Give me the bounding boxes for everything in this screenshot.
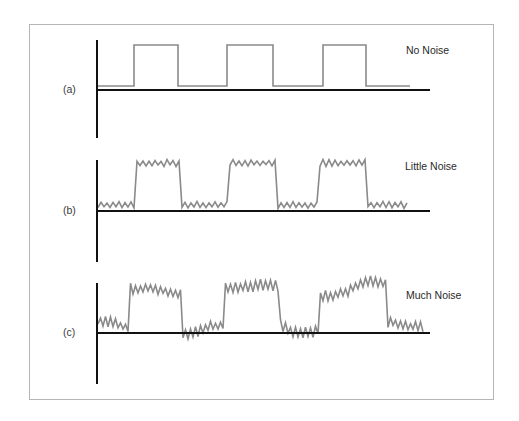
signal-trace-b — [98, 160, 407, 209]
label-little-noise: Little Noise — [405, 160, 457, 172]
panel-b-little-noise — [97, 160, 430, 263]
panel-tag-a: (a) — [63, 83, 76, 95]
panel-c-much-noise — [97, 276, 430, 384]
signal-trace-a — [98, 45, 410, 86]
panel-a-no-noise — [97, 40, 430, 138]
panel-tag-b: (b) — [63, 204, 76, 216]
signal-trace-c — [98, 276, 423, 339]
label-much-noise: Much Noise — [406, 289, 461, 301]
label-no-noise: No Noise — [406, 44, 449, 56]
signal-noise-diagram — [0, 0, 519, 421]
panel-tag-c: (c) — [63, 326, 75, 338]
